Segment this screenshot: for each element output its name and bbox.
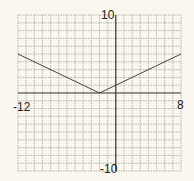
- graph-plot: [0, 0, 194, 181]
- x-max-label: 8: [177, 99, 184, 111]
- y-max-label: 10: [101, 9, 114, 21]
- x-min-label: -12: [13, 101, 30, 113]
- y-min-label: -10: [100, 163, 117, 175]
